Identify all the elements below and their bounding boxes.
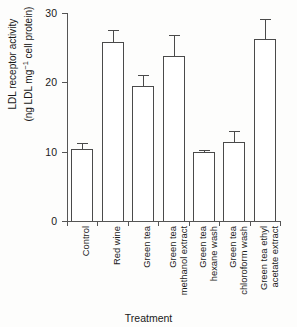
error-bar-line: [265, 19, 266, 40]
y-axis-title-line2: (ng LDL mg−1 cell protein): [19, 0, 35, 139]
y-axis-title-exponent: −1: [20, 61, 29, 70]
bar-group: [102, 13, 124, 221]
bar[interactable]: [102, 42, 124, 221]
bar[interactable]: [132, 86, 154, 221]
error-bar-cap: [138, 75, 149, 76]
error-bar-line: [234, 131, 235, 142]
x-tick: [158, 221, 159, 226]
bar[interactable]: [163, 56, 185, 221]
error-bar-line: [113, 30, 114, 42]
y-tick-label-20: 20: [35, 77, 57, 88]
bar-group: [163, 13, 185, 221]
y-axis-title: LDL receptor activity (ng LDL mg−1 cell …: [7, 0, 35, 139]
y-axis-title-line2-post: cell protein): [23, 7, 34, 61]
error-bar-cap: [229, 131, 240, 132]
error-bar-cap: [108, 30, 119, 31]
y-axis-title-line2-pre: (ng LDL mg: [23, 70, 34, 122]
x-axis-line: [67, 221, 280, 222]
x-tick: [97, 221, 98, 226]
error-bar-line: [174, 35, 175, 56]
error-bar-cap: [169, 35, 180, 36]
x-tick: [128, 221, 129, 226]
y-tick-label-0: 0: [35, 216, 57, 227]
error-bar-line: [143, 75, 144, 85]
error-bar-cap: [199, 150, 210, 151]
bar[interactable]: [71, 149, 93, 221]
plot-area: [67, 13, 280, 221]
bar[interactable]: [193, 152, 215, 221]
bar-group: [193, 13, 215, 221]
x-tick: [67, 221, 68, 226]
bar-group: [223, 13, 245, 221]
chart-figure: LDL receptor activity (ng LDL mg−1 cell …: [0, 0, 297, 327]
y-tick-label-10: 10: [35, 147, 57, 158]
bar[interactable]: [223, 142, 245, 221]
bar-group: [71, 13, 93, 221]
bar-group: [254, 13, 276, 221]
y-tick-label-30: 30: [35, 8, 57, 19]
error-bar-cap: [77, 143, 88, 144]
bar[interactable]: [254, 39, 276, 221]
bar-group: [132, 13, 154, 221]
x-axis-title: Treatment: [0, 312, 297, 324]
error-bar-cap: [260, 19, 271, 20]
y-axis-title-line1: LDL receptor activity: [7, 0, 20, 139]
